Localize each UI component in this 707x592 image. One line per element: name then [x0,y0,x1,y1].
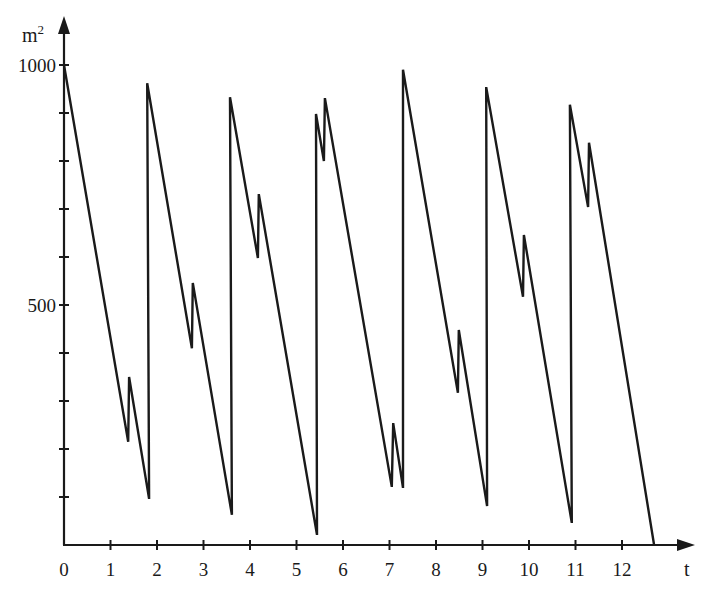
y-axis-arrow-icon [58,16,70,34]
y-axis-label: m2 [22,22,44,46]
x-tick-label: 10 [520,559,539,580]
x-tick-label: 5 [292,559,302,580]
x-tick-label: 12 [613,559,632,580]
x-tick-label: 6 [338,559,348,580]
x-tick-label: 11 [566,559,584,580]
x-tick-label: 8 [431,559,441,580]
x-tick-label: 1 [106,559,116,580]
x-tick-label: 4 [245,559,255,580]
sawtooth-chart: 01234567891011125001000 m2 t [0,0,707,592]
y-tick-label: 1000 [18,55,56,76]
x-tick-label: 0 [59,559,69,580]
x-axis-arrow-icon [677,539,695,551]
x-tick-label: 3 [199,559,209,580]
x-tick-label: 7 [385,559,395,580]
axis-ticks [59,65,622,550]
x-axis-label: t [684,558,690,580]
area-series-line [64,65,654,545]
x-tick-label: 2 [152,559,162,580]
x-tick-label: 9 [478,559,488,580]
y-tick-label: 500 [28,295,57,316]
